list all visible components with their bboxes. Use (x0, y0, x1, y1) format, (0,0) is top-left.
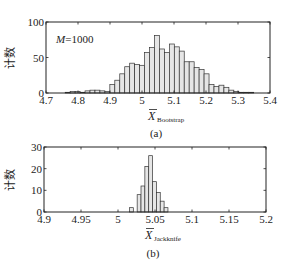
histogram-bar (169, 44, 174, 93)
histogram-bar (199, 70, 204, 93)
x-tick-label: 5 (115, 213, 121, 225)
histogram-bar (137, 195, 141, 212)
y-axis-label: 计数 (4, 169, 17, 191)
histogram-bar (154, 35, 159, 93)
histogram-bar (135, 65, 140, 93)
x-tick-label: 5.1 (167, 94, 181, 106)
histogram-bar (189, 62, 194, 93)
histogram-bar (214, 87, 219, 93)
x-tick-label: 5.1 (185, 213, 199, 225)
x-tick-label: 4.95 (71, 213, 91, 225)
y-tick-label: 10 (31, 184, 43, 196)
histogram-bar (145, 53, 150, 93)
histogram-bar (149, 156, 153, 212)
x-tick-label: 5.2 (259, 213, 273, 225)
x-tick-label: 5.15 (219, 213, 239, 225)
y-tick-label: 20 (31, 163, 43, 175)
histogram-bar (140, 65, 145, 93)
x-tick-label: 5.2 (199, 94, 213, 106)
histogram-bar (159, 49, 164, 93)
x-tick-label: 4.8 (71, 94, 85, 106)
histogram-figure: 4.74.84.955.15.25.35.4050100计数XBootstrap… (0, 0, 287, 268)
histogram-bar (184, 62, 189, 93)
y-tick-label: 0 (39, 87, 45, 99)
y-tick-label: 50 (33, 52, 45, 64)
panel-caption: (a) (150, 127, 163, 140)
histogram-bar (209, 84, 214, 93)
sample-size-annotation: M=1000 (55, 33, 94, 45)
histogram-bar (204, 74, 209, 93)
histogram-bar (129, 208, 133, 212)
histogram-bar (153, 182, 157, 212)
histogram-bar (164, 53, 169, 93)
x-tick-label: 5.3 (231, 94, 245, 106)
histogram-bar (179, 51, 184, 93)
x-tick-label: 5.4 (263, 94, 277, 106)
histogram-bar (141, 186, 145, 212)
x-axis-label: X (144, 228, 153, 242)
x-tick-label: 5.05 (145, 213, 165, 225)
y-axis-label: 计数 (4, 47, 17, 69)
x-axis-label-subscript: Jackknife (154, 235, 181, 243)
x-tick-label: 4.9 (103, 94, 117, 106)
histogram-bar (130, 63, 135, 93)
x-tick-label: 5 (139, 94, 145, 106)
histogram-bar (110, 84, 115, 93)
histogram-bar (150, 48, 155, 93)
y-tick-label: 0 (37, 206, 43, 218)
histogram-bar (174, 47, 179, 93)
panel-caption: (b) (147, 247, 160, 260)
histogram-bar (145, 167, 149, 213)
histogram-bar (120, 74, 125, 93)
histogram-bar (219, 85, 224, 93)
x-axis-label: X (147, 109, 156, 123)
histogram-bar (164, 208, 168, 212)
histogram-bar (125, 67, 130, 93)
histogram-bar (224, 87, 229, 93)
x-axis-label-subscript: Bootstrap (157, 116, 185, 124)
histogram-bar (160, 201, 164, 212)
histogram-bar (115, 80, 120, 93)
histogram-bar (194, 67, 199, 93)
y-tick-label: 30 (31, 141, 43, 153)
y-tick-label: 100 (28, 16, 45, 28)
histogram-bar (156, 193, 160, 213)
